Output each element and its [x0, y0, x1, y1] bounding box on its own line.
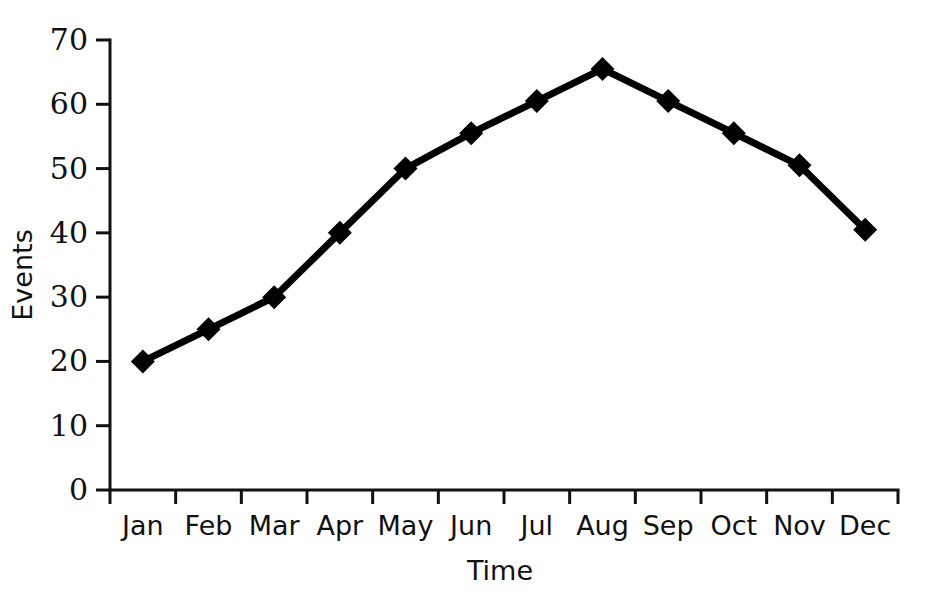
data-point-marker: [656, 89, 680, 113]
x-axis-ticks: [110, 490, 898, 504]
y-axis-title: Events: [7, 229, 38, 320]
x-axis-category-labels: JanFebMarAprMayJunJulAugSepOctNovDec: [120, 510, 891, 541]
y-axis-tick-label: 30: [50, 279, 88, 314]
x-axis-category-label: Nov: [773, 510, 826, 541]
data-point-marker: [722, 121, 746, 145]
axes-group: [110, 40, 898, 490]
y-axis-tick-label: 20: [50, 343, 88, 378]
y-axis-tick-label: 10: [50, 408, 88, 443]
data-point-marker: [131, 349, 155, 373]
data-point-marker: [591, 57, 615, 81]
x-axis-category-label: Oct: [710, 510, 757, 541]
y-axis-tick-labels: 010203040506070: [50, 22, 88, 507]
x-axis-category-label: Sep: [643, 510, 694, 541]
y-axis-tick-label: 0: [69, 472, 88, 507]
x-axis-title: Time: [466, 555, 533, 586]
y-axis-tick-label: 60: [50, 86, 88, 121]
y-axis-tick-label: 40: [50, 215, 88, 250]
data-series-group: [131, 57, 877, 374]
y-axis-ticks: [96, 40, 110, 490]
x-axis-category-label: Jun: [448, 510, 492, 541]
chart-figure: 010203040506070 JanFebMarAprMayJunJulAug…: [0, 0, 928, 604]
data-point-marker: [525, 89, 549, 113]
x-axis-category-label: Aug: [576, 510, 629, 541]
chart-canvas: 010203040506070 JanFebMarAprMayJunJulAug…: [0, 0, 928, 604]
x-axis-category-label: Dec: [839, 510, 891, 541]
series-line: [143, 69, 865, 362]
x-axis-category-label: Jul: [519, 510, 554, 541]
x-axis-category-label: Mar: [249, 510, 301, 541]
data-point-marker: [197, 317, 221, 341]
y-axis-tick-label: 70: [50, 22, 88, 57]
x-axis-category-label: Apr: [316, 510, 364, 541]
x-axis-category-label: Feb: [185, 510, 233, 541]
x-axis-category-label: May: [378, 510, 434, 541]
x-axis-category-label: Jan: [120, 510, 164, 541]
y-axis-tick-label: 50: [50, 151, 88, 186]
